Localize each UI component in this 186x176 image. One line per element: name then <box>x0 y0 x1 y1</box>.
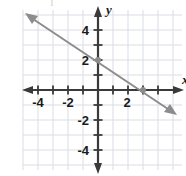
point-y-intercept <box>95 57 101 63</box>
x-tick-label-pos2: 2 <box>123 95 130 110</box>
point-x-intercept <box>140 87 146 93</box>
x-tick-label-neg2: -2 <box>62 95 74 110</box>
y-tick-label-neg2: -2 <box>77 113 89 128</box>
y-tick-label-pos4: 4 <box>82 23 90 38</box>
top-crop-artifact: l <box>51 0 54 8</box>
x-axis-label: x <box>181 72 186 87</box>
graph-figure: -4 -2 2 4 2 -2 -4 y x l <box>0 0 186 176</box>
x-tick-label-neg4: -4 <box>32 95 44 110</box>
y-tick-label-neg4: -4 <box>77 143 89 158</box>
y-axis-label: y <box>104 2 112 17</box>
coordinate-plane: -4 -2 2 4 2 -2 -4 y x l <box>0 0 186 176</box>
y-tick-label-pos2: 2 <box>82 53 89 68</box>
